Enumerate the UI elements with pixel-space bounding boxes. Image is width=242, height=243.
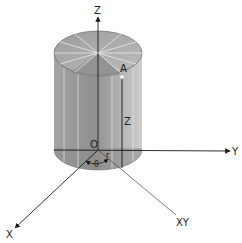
origin-label: O — [90, 139, 98, 150]
cylindrical-coordinates-diagram: Z Y X XY O A Z r θ — [0, 0, 242, 243]
point-a-label: A — [120, 63, 127, 74]
xy-label: XY — [176, 217, 190, 228]
theta-label: θ — [94, 160, 99, 169]
y-axis-label: Y — [231, 146, 239, 157]
x-axis-label: X — [6, 229, 13, 240]
x-axis — [15, 150, 98, 228]
xy-projection-line — [98, 150, 176, 215]
point-a-marker — [120, 75, 124, 79]
z-axis-label: Z — [94, 5, 101, 16]
height-label: Z — [124, 116, 131, 127]
